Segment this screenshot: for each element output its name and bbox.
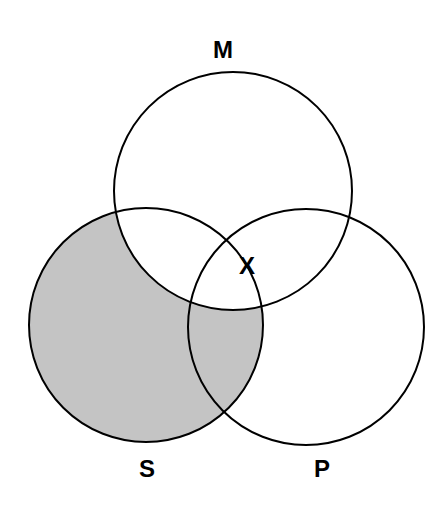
label-s: S xyxy=(139,455,155,482)
venn-diagram: M S P X xyxy=(0,0,447,505)
label-p: P xyxy=(314,455,330,482)
shaded-region xyxy=(0,0,447,505)
label-m: M xyxy=(213,36,233,63)
label-x: X xyxy=(239,252,255,279)
